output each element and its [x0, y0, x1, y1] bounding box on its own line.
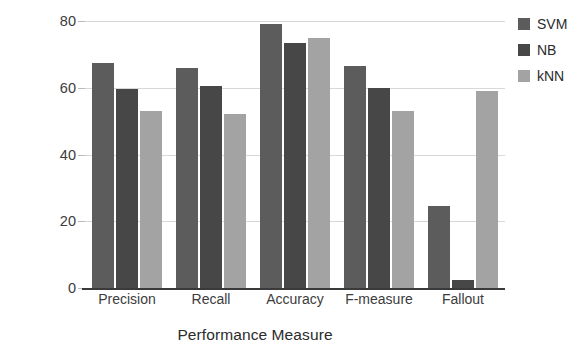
legend-swatch-icon — [518, 44, 530, 56]
y-tick-mark — [78, 155, 85, 156]
bar-knn-precision — [140, 111, 162, 288]
x-axis-line — [82, 288, 505, 290]
legend: SVMNBkNN — [518, 11, 583, 89]
bar-group — [169, 21, 253, 288]
bar-svm-accuracy — [260, 24, 282, 288]
legend-label: SVM — [537, 16, 567, 32]
y-tick-mark — [78, 21, 85, 22]
bar-svm-fallout — [428, 206, 450, 288]
legend-label: NB — [537, 42, 556, 58]
legend-item-svm[interactable]: SVM — [518, 11, 583, 37]
y-tick-mark — [78, 221, 85, 222]
y-tick-label: 60 — [16, 80, 76, 96]
x-tick-label: Precision — [85, 291, 169, 313]
x-tick-label: Accuracy — [253, 291, 337, 313]
bar-svm-precision — [92, 63, 114, 288]
legend-swatch-icon — [518, 18, 530, 30]
x-axis-title: Performance Measure — [0, 326, 510, 344]
x-axis-tick-labels: PrecisionRecallAccuracyF-measureFallout — [85, 291, 505, 313]
bar-chart: Percentage 020406080 PrecisionRecallAccu… — [0, 0, 583, 352]
bar-groups — [85, 21, 505, 288]
plot-area — [85, 21, 505, 288]
legend-swatch-icon — [518, 70, 530, 82]
bar-knn-f-measure — [392, 111, 414, 288]
x-tick-label: Fallout — [421, 291, 505, 313]
legend-item-nb[interactable]: NB — [518, 37, 583, 63]
bar-group — [253, 21, 337, 288]
y-axis-title: Percentage — [0, 0, 36, 352]
bar-group — [421, 21, 505, 288]
bar-nb-precision — [116, 89, 138, 288]
bar-group — [85, 21, 169, 288]
bar-group — [337, 21, 421, 288]
x-tick-label: F-measure — [337, 291, 421, 313]
bar-svm-f-measure — [344, 66, 366, 288]
bar-knn-recall — [224, 114, 246, 288]
y-tick-label: 40 — [16, 147, 76, 163]
bar-nb-fallout — [452, 280, 474, 288]
y-tick-label: 20 — [16, 213, 76, 229]
y-tick-label: 0 — [16, 280, 76, 296]
bar-nb-recall — [200, 86, 222, 288]
bar-nb-accuracy — [284, 43, 306, 288]
y-tick-mark — [78, 88, 85, 89]
x-tick-label: Recall — [169, 291, 253, 313]
legend-label: kNN — [537, 68, 564, 84]
legend-item-knn[interactable]: kNN — [518, 63, 583, 89]
x-axis-title-label: Performance Measure — [177, 326, 332, 343]
bar-knn-accuracy — [308, 38, 330, 288]
bar-nb-f-measure — [368, 88, 390, 288]
bar-svm-recall — [176, 68, 198, 288]
y-tick-label: 80 — [16, 13, 76, 29]
bar-knn-fallout — [476, 91, 498, 288]
